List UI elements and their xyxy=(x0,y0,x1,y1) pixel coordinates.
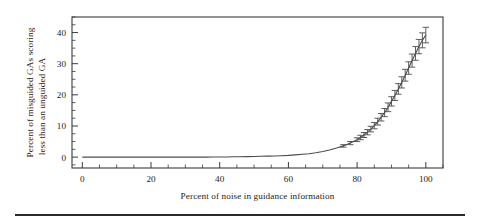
x-tick-label: 40 xyxy=(215,174,225,184)
x-tick-label: 100 xyxy=(419,174,433,184)
data-series-line xyxy=(82,35,426,157)
x-tick-label: 20 xyxy=(146,174,156,184)
y-tick-label: 30 xyxy=(57,59,67,69)
x-axis-title: Percent of noise in guidance information xyxy=(181,191,335,201)
y-tick-label: 10 xyxy=(57,121,67,131)
x-tick-label: 60 xyxy=(284,174,294,184)
footer-divider xyxy=(15,214,465,216)
x-tick-label: 80 xyxy=(353,174,363,184)
exponential-noise-chart: 020406080100010203040Percent of noise in… xyxy=(0,0,478,223)
y-tick-label: 0 xyxy=(61,153,66,163)
figure-container: 020406080100010203040Percent of noise in… xyxy=(0,0,478,223)
y-axis-title-line2: less than an unguided GA xyxy=(37,58,47,156)
y-tick-label: 40 xyxy=(57,28,67,38)
y-tick-label: 20 xyxy=(57,90,67,100)
y-axis-title-line1: Percent of misguided GAs scoring xyxy=(25,27,35,157)
x-tick-label: 0 xyxy=(80,174,85,184)
plot-frame xyxy=(72,17,443,168)
